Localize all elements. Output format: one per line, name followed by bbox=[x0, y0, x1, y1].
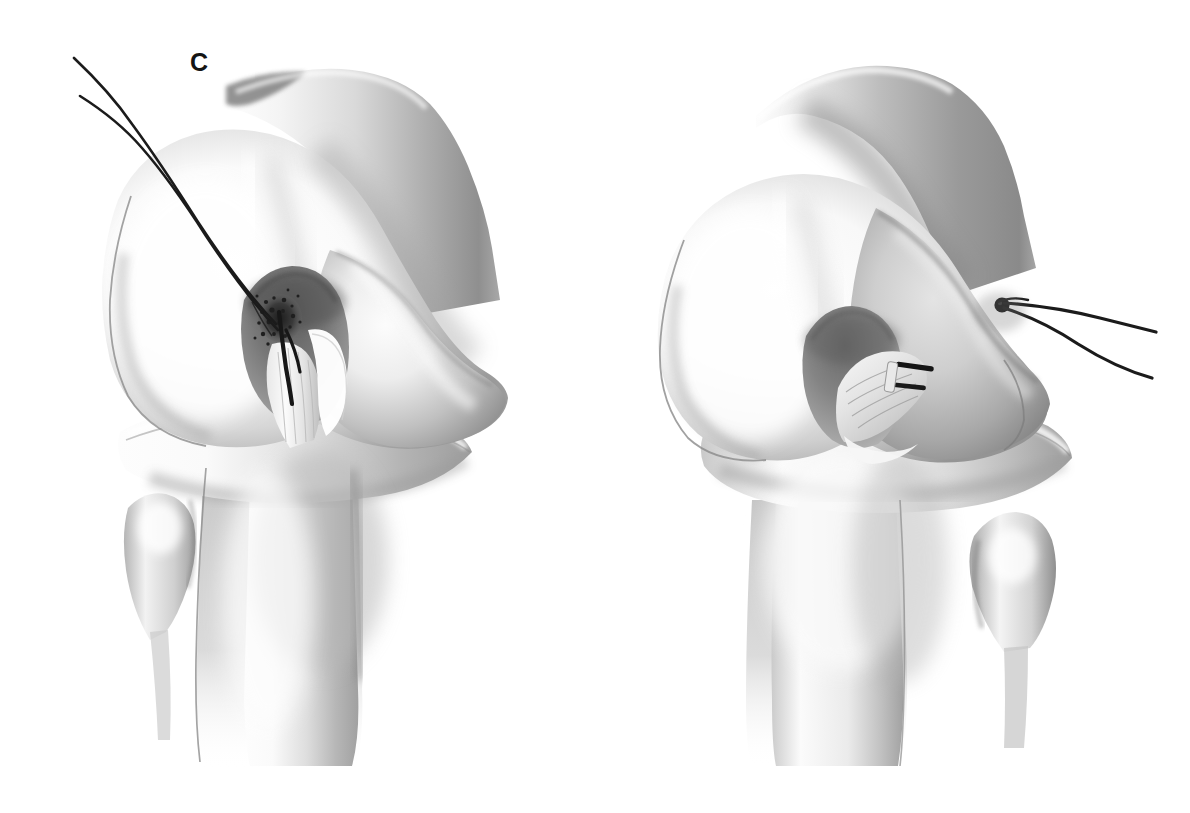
panel-c: C Distal femur with medial and lateral c… bbox=[0, 0, 620, 813]
figure-root: C Distal femur with medial and lateral c… bbox=[0, 0, 1190, 813]
panel-d-illustration bbox=[600, 0, 1190, 813]
panel-d: D Graft fully seated in the intercondyla… bbox=[600, 0, 1190, 813]
fibular-shaft-d bbox=[1004, 646, 1028, 748]
panel-label-c: C bbox=[190, 50, 208, 75]
panel-c-illustration bbox=[0, 0, 620, 813]
